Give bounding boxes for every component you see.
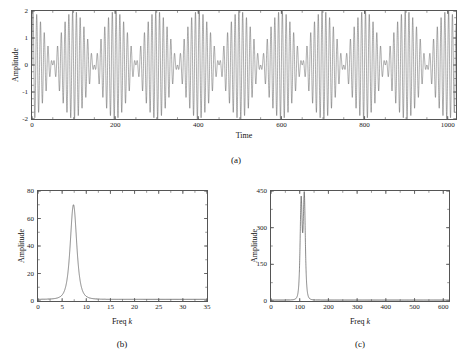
plot-area-b	[37, 190, 208, 302]
x-axis-title-c: Freq k	[350, 318, 370, 326]
x-tick-label: 20	[131, 304, 138, 311]
panel-caption-c: (c)	[355, 340, 365, 349]
y-tick-label: 0	[0, 298, 34, 305]
panel-b: 05101520253035020406080 Freq k Amplitude…	[0, 180, 236, 352]
panel-a: 02004006008001000-2-1012 Time Amplitude …	[0, 0, 472, 175]
y-tick-label: -1	[0, 89, 28, 96]
x-tick-label: 10	[83, 304, 90, 311]
plot-area-a	[31, 10, 457, 120]
y-tick-label: 300	[227, 224, 267, 231]
y-tick-label: 150	[227, 261, 267, 268]
x-axis-title-c-italic: k	[367, 317, 371, 326]
x-tick-label: 0	[30, 122, 34, 129]
x-axis-title-a: Time	[236, 132, 253, 140]
x-axis-title-b: Freq k	[112, 318, 132, 326]
y-axis-title-c: Amplitude	[251, 229, 259, 263]
y-axis-title-a: Amplitude	[12, 48, 20, 82]
x-tick-label: 100	[294, 304, 305, 311]
spectrum-c	[271, 191, 449, 301]
y-tick-label: 20	[0, 270, 34, 277]
x-tick-label: 600	[276, 122, 287, 129]
x-tick-label: 30	[179, 304, 186, 311]
x-tick-label: 0	[36, 304, 40, 311]
x-tick-label: 600	[438, 304, 449, 311]
panel-caption-b: (b)	[117, 340, 128, 349]
panel-c: 01002003004005006000150300450 Freq k Amp…	[236, 180, 472, 352]
x-tick-label: 0	[269, 304, 273, 311]
x-axis-title-b-italic: k	[129, 317, 133, 326]
figure-container: 02004006008001000-2-1012 Time Amplitude …	[0, 0, 472, 352]
x-tick-label: 800	[359, 122, 370, 129]
x-tick-label: 1000	[441, 122, 455, 129]
x-tick-label: 300	[352, 304, 363, 311]
spectrum-b	[38, 191, 207, 301]
panel-caption-a: (a)	[231, 156, 241, 165]
x-tick-label: 500	[409, 304, 420, 311]
x-tick-label: 400	[381, 304, 392, 311]
y-tick-label: 2	[0, 8, 28, 15]
x-axis-title-c-text: Freq	[350, 317, 367, 326]
y-tick-label: -2	[0, 116, 28, 123]
y-tick-label: 80	[0, 188, 34, 195]
x-tick-label: 200	[110, 122, 121, 129]
plot-area-c	[270, 190, 450, 302]
y-axis-title-b: Amplitude	[18, 229, 26, 263]
x-tick-label: 25	[155, 304, 162, 311]
x-tick-label: 400	[193, 122, 204, 129]
x-tick-label: 5	[60, 304, 64, 311]
waveform-a	[32, 11, 456, 119]
x-tick-label: 15	[107, 304, 114, 311]
y-tick-label: 450	[227, 188, 267, 195]
x-axis-title-b-text: Freq	[112, 317, 129, 326]
y-tick-label: 1	[0, 35, 28, 42]
y-tick-label: 0	[227, 298, 267, 305]
x-tick-label: 35	[204, 304, 211, 311]
y-tick-label: 60	[0, 215, 34, 222]
x-tick-label: 200	[323, 304, 334, 311]
